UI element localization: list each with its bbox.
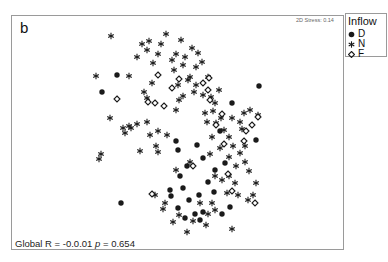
data-point-n — [219, 177, 225, 183]
data-point-d — [219, 211, 224, 216]
data-point-n — [170, 219, 176, 225]
global-r-statistic: Global R = -0.0.01 p = 0.654 — [15, 238, 135, 249]
data-point-d — [167, 187, 172, 192]
data-point-d — [205, 179, 210, 184]
data-point-n — [250, 192, 256, 198]
data-point-f — [241, 138, 247, 144]
data-point-d — [182, 215, 187, 220]
data-point-d — [200, 209, 205, 214]
data-point-d — [196, 192, 201, 197]
legend-label: F — [358, 48, 364, 59]
data-point-n — [173, 51, 179, 57]
data-point-n — [205, 211, 211, 217]
data-point-d — [186, 197, 191, 202]
data-point-d — [114, 72, 119, 77]
data-point-d — [229, 100, 234, 105]
stress-value: 2D Stress: 0.14 — [296, 17, 334, 23]
data-point-n — [163, 31, 169, 37]
data-point-n — [93, 73, 99, 79]
data-point-d — [180, 185, 185, 190]
data-point-n — [197, 200, 203, 206]
data-point-f — [155, 72, 161, 78]
data-point-f — [145, 99, 151, 105]
data-point-n — [126, 73, 132, 79]
data-point-d — [177, 173, 182, 178]
data-point-d — [200, 155, 205, 160]
data-point-f — [255, 114, 261, 120]
legend: Inflow D N F — [345, 13, 387, 57]
data-point-n — [173, 107, 179, 113]
data-point-n — [178, 37, 184, 43]
data-point-d — [227, 204, 232, 209]
data-point-n — [232, 180, 238, 186]
data-point-n — [176, 212, 182, 218]
data-point-n — [160, 206, 166, 212]
data-point-d — [253, 137, 258, 142]
data-point-n — [246, 168, 252, 174]
data-point-n — [204, 119, 210, 125]
p-value: = 0.654 — [100, 238, 135, 249]
data-point-n — [164, 132, 170, 138]
data-point-n — [212, 173, 218, 179]
data-point-n — [189, 45, 195, 51]
data-point-d — [256, 83, 261, 88]
data-point-f — [176, 76, 182, 82]
data-point-d — [192, 211, 197, 216]
data-point-n — [193, 64, 199, 70]
data-point-f — [229, 188, 235, 194]
data-point-f — [200, 80, 206, 86]
data-point-d — [211, 189, 216, 194]
data-point-f — [249, 122, 255, 128]
data-point-n — [158, 41, 164, 47]
data-point-n — [235, 192, 241, 198]
data-point-n — [107, 115, 113, 121]
data-point-n — [169, 57, 175, 63]
data-point-n — [171, 67, 177, 73]
data-point-n — [137, 148, 143, 154]
data-point-n — [195, 50, 201, 56]
data-point-n — [229, 226, 235, 232]
data-point-n — [144, 47, 150, 53]
data-point-d — [184, 163, 189, 168]
data-point-n — [199, 59, 205, 65]
data-point-f — [152, 100, 158, 106]
data-point-n — [147, 132, 153, 138]
data-point-n — [141, 89, 147, 95]
data-point-n — [233, 163, 239, 169]
data-point-n — [175, 82, 181, 88]
data-point-d — [175, 147, 180, 152]
data-point-n — [153, 143, 159, 149]
data-point-d — [222, 160, 227, 165]
data-point-n — [155, 149, 161, 155]
legend-item-f: F — [348, 49, 364, 59]
data-point-n — [193, 82, 199, 88]
data-point-n — [190, 218, 196, 224]
panel-label: b — [20, 19, 28, 36]
data-point-d — [173, 138, 178, 143]
data-point-n — [226, 154, 232, 160]
data-point-n — [108, 33, 114, 39]
data-point-n — [134, 121, 140, 127]
data-point-n — [182, 54, 188, 60]
data-point-n — [134, 54, 140, 60]
data-point-n — [146, 38, 152, 44]
global-r-text: Global R = -0.0.01 — [15, 238, 95, 249]
data-point-f — [243, 128, 249, 134]
data-point-d — [118, 200, 123, 205]
data-point-f — [169, 85, 175, 91]
data-point-n — [209, 134, 215, 140]
data-point-f — [205, 87, 211, 93]
data-point-n — [207, 151, 213, 157]
data-point-n — [173, 167, 179, 173]
open-diamond-icon — [348, 51, 355, 58]
data-point-d — [99, 89, 104, 94]
data-point-n — [139, 41, 145, 47]
data-point-f — [219, 111, 225, 117]
legend-title: Inflow — [348, 15, 377, 27]
data-point-n — [150, 60, 156, 66]
data-point-d — [175, 205, 180, 210]
data-point-n — [155, 51, 161, 57]
data-point-n — [191, 89, 197, 95]
data-point-n — [242, 159, 248, 165]
data-point-n — [217, 145, 223, 151]
